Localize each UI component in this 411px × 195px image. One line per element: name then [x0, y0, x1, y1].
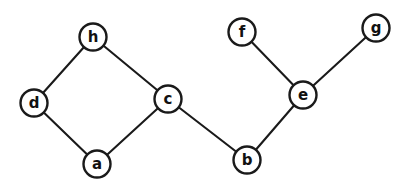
node-e: e [290, 82, 317, 109]
edge-e-g [303, 28, 376, 95]
node-b: b [234, 147, 261, 174]
graph-canvas: hdcafgeb [0, 0, 411, 195]
node-g-label: g [371, 19, 382, 37]
node-b-label: b [242, 151, 253, 169]
node-d: d [21, 90, 48, 117]
node-e-label: e [298, 86, 308, 104]
node-a: a [84, 151, 111, 178]
node-f-label: f [239, 23, 246, 41]
graph-figure: hdcafgeb [0, 0, 411, 195]
node-c: c [155, 86, 182, 113]
node-h-label: h [88, 28, 99, 46]
node-c-label: c [164, 90, 173, 108]
edge-c-b [168, 99, 247, 160]
node-d-label: d [29, 94, 40, 112]
node-h: h [80, 24, 107, 51]
node-f: f [229, 19, 256, 46]
node-g: g [363, 15, 390, 42]
node-a-label: a [92, 155, 102, 173]
